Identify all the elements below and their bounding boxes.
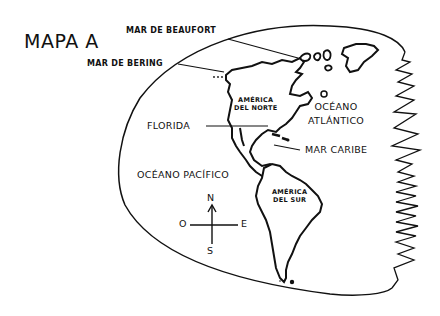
label-north-america: AMÉRICA DEL NORTE (234, 96, 278, 112)
compass-north: N (207, 192, 214, 203)
label-caribbean-sea: MAR CARIBE (305, 144, 367, 155)
south-america-outline (256, 164, 322, 282)
label-bering-sea: MAR DE BERING (87, 59, 163, 68)
globe-edge-zigzag (392, 52, 420, 288)
north-america-outline (226, 58, 312, 176)
arctic-islands (300, 50, 332, 70)
label-atlantic-ocean: OCÉANO ATLÁNTICO (308, 100, 364, 128)
caribbean-leader (274, 145, 300, 150)
bering-leader (178, 64, 224, 72)
beaufort-leader (228, 39, 298, 58)
map-title: MAPA A (24, 30, 99, 52)
compass-south: S (207, 245, 213, 256)
greenland-outline (342, 44, 378, 72)
compass-west: O (179, 218, 187, 229)
label-pacific-ocean: OCÉANO PACÍFICO (137, 169, 229, 180)
label-florida: FLORIDA (147, 120, 190, 131)
compass-east: E (241, 218, 247, 229)
compass-rose (190, 205, 238, 244)
label-beaufort-sea: MAR DE BEAUFORT (126, 26, 216, 35)
label-south-america: AMÉRICA DEL SUR (272, 188, 307, 204)
